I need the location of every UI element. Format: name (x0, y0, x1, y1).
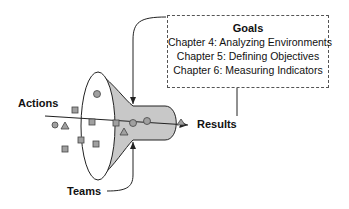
results-label: Results (197, 118, 237, 130)
goals-item-chapter-6: Chapter 6: Measuring Indicators (168, 63, 328, 77)
funnel-mouth (81, 72, 115, 180)
teams-label: Teams (67, 185, 101, 197)
goals-arrow (133, 17, 166, 104)
goals-box: Goals Chapter 4: Analyzing Environments … (167, 15, 329, 88)
goals-item-chapter-5: Chapter 5: Defining Objectives (168, 49, 328, 63)
goals-title: Goals (168, 21, 328, 35)
goals-item-chapter-4: Chapter 4: Analyzing Environments (168, 35, 328, 49)
actions-label: Actions (18, 97, 58, 109)
